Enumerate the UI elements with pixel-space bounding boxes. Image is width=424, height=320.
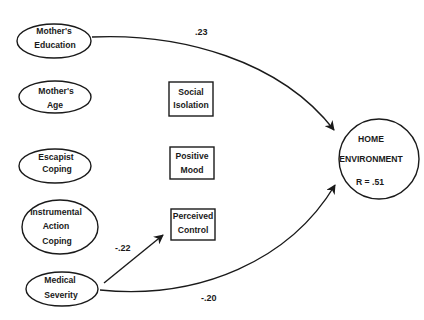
svg-text:Education: Education [34,40,76,50]
svg-text:Medical: Medical [44,275,76,285]
node-positive-mood: Positive Mood [170,147,214,179]
coefficient-label: -.20 [201,293,217,303]
coefficient-label: -.22 [115,243,131,253]
svg-text:Age: Age [47,100,63,110]
svg-text:Positive: Positive [176,151,209,161]
svg-text:R = .51: R = .51 [356,177,384,187]
node-mothers-education: Mother's Education [17,24,91,58]
node-instrumental-action-coping: Instrumental Action Coping [22,200,98,254]
svg-text:ENVIRONMENT: ENVIRONMENT [339,154,403,164]
path-medical-severity-to-perceived-control [104,235,163,283]
svg-text:Coping: Coping [42,164,72,174]
svg-text:HOME: HOME [358,134,384,144]
node-perceived-control: Perceived Control [171,209,215,240]
svg-text:Mood: Mood [181,165,204,175]
svg-text:Mother's: Mother's [38,86,74,96]
node-escapist-coping: Escapist Coping [19,149,91,183]
coefficient-label: .23 [195,27,208,37]
node-mothers-age: Mother's Age [19,81,91,113]
node-medical-severity: Medical Severity [26,272,98,306]
svg-text:Mother's: Mother's [36,26,72,36]
svg-text:Escapist: Escapist [38,152,73,162]
path-medical-severity-to-home [100,185,335,292]
svg-text:Instrumental: Instrumental [30,207,82,217]
svg-text:Severity: Severity [44,290,78,300]
node-home-environment: HOME ENVIRONMENT R = .51 [339,119,419,199]
node-social-isolation: Social Isolation [169,82,213,116]
svg-text:Social: Social [178,87,203,97]
svg-text:Isolation: Isolation [173,100,208,110]
svg-text:Coping: Coping [42,236,72,246]
svg-text:Perceived: Perceived [173,211,214,221]
path-diagram: .23 -.22 -.20 Mother's Education Mother'… [0,0,424,320]
svg-text:Action: Action [43,221,70,231]
svg-text:Control: Control [178,225,209,235]
